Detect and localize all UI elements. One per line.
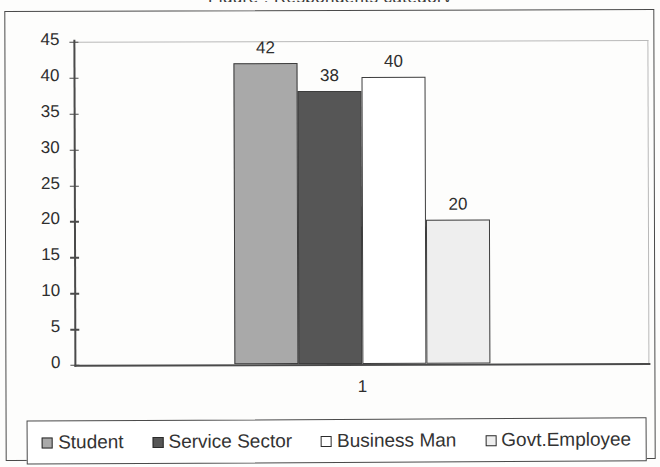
chart-legend: StudentService SectorBusiness ManGovt.Em… bbox=[27, 417, 647, 464]
y-axis-tick-label: 15 bbox=[41, 246, 60, 263]
legend-label: Service Sector bbox=[168, 430, 292, 453]
y-axis-tick-mark bbox=[70, 185, 79, 186]
y-axis-tick-label: 35 bbox=[41, 103, 60, 120]
bar-govt-employee bbox=[426, 220, 490, 364]
bar-student bbox=[233, 63, 298, 365]
chart-page: Figure : Respondents category 4540353025… bbox=[0, 0, 660, 467]
y-axis-tick-group: 454035302520151050 bbox=[5, 10, 653, 12]
y-axis-tick-mark bbox=[70, 114, 79, 115]
y-axis-tick-mark bbox=[70, 257, 79, 258]
legend-label: Govt.Employee bbox=[501, 428, 631, 451]
legend-item-business-man[interactable]: Business Man bbox=[321, 429, 456, 452]
y-axis-tick-mark bbox=[70, 365, 79, 366]
bar-group bbox=[5, 10, 653, 12]
y-axis-tick-mark bbox=[70, 149, 79, 150]
bar-service-sector bbox=[298, 91, 363, 364]
y-axis-tick-label: 25 bbox=[41, 174, 60, 191]
data-label-student: 42 bbox=[233, 39, 297, 56]
y-axis-tick-mark bbox=[70, 78, 79, 79]
y-axis-tick-mark bbox=[70, 221, 79, 222]
bar-business-man bbox=[362, 77, 427, 364]
legend-item-service-sector[interactable]: Service Sector bbox=[152, 430, 292, 453]
data-label-business-man: 40 bbox=[361, 53, 425, 70]
legend-label: Business Man bbox=[337, 429, 456, 452]
legend-item-govt-employee[interactable]: Govt.Employee bbox=[485, 428, 631, 451]
legend-swatch-icon bbox=[42, 437, 53, 448]
y-axis-tick-label: 30 bbox=[41, 139, 60, 156]
chart-outer-frame: 454035302520151050 42384020 1 StudentSer… bbox=[4, 9, 655, 461]
y-axis-tick-label: 45 bbox=[40, 31, 59, 48]
y-axis-tick-label: 5 bbox=[51, 318, 61, 335]
x-axis-category-label: 1 bbox=[74, 376, 650, 398]
y-axis-tick-label: 10 bbox=[41, 282, 60, 299]
y-axis-tick-mark bbox=[70, 293, 79, 294]
y-axis-tick-mark bbox=[70, 329, 79, 330]
legend-swatch-icon bbox=[485, 435, 496, 446]
legend-item-student[interactable]: Student bbox=[42, 431, 124, 453]
y-axis-tick-label: 20 bbox=[41, 210, 60, 227]
data-label-group: 42384020 bbox=[5, 10, 653, 12]
y-axis-tick-label: 40 bbox=[41, 67, 60, 84]
legend-swatch-icon bbox=[321, 436, 332, 447]
y-axis-tick-label: 0 bbox=[51, 354, 61, 371]
data-label-govt-employee: 20 bbox=[426, 196, 490, 213]
y-axis-tick-mark bbox=[69, 42, 78, 43]
legend-label: Student bbox=[58, 431, 124, 453]
legend-swatch-icon bbox=[152, 436, 163, 447]
data-label-service-sector: 38 bbox=[297, 67, 361, 84]
cropped-figure-title: Figure : Respondents category bbox=[0, 0, 660, 2]
